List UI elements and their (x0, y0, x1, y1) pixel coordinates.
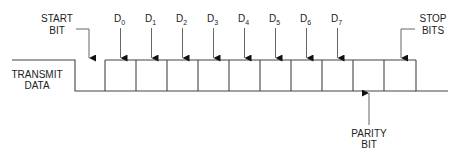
stop-edge (416, 60, 448, 91)
data-bit-markers: D0D1D2D3D4D5D6D7 (114, 13, 342, 58)
signal-label-line2: DATA (24, 80, 50, 91)
start-bit-label-line1: START (41, 13, 73, 24)
data-bit-label: D6 (300, 13, 311, 26)
data-bit-label: D5 (269, 13, 280, 26)
data-bit-label: D3 (207, 13, 218, 26)
data-bit-label: D0 (114, 13, 125, 26)
start-bit-label-line2: BIT (49, 25, 65, 36)
data-bit-label: D4 (238, 13, 249, 26)
start-bit-arrow (76, 29, 89, 58)
stop-bits-label-line2: BITS (422, 25, 445, 36)
parity-bit-label-line1: PARITY (351, 128, 387, 139)
signal-label-line1: TRANSMIT (11, 69, 62, 80)
parity-bit-label-line2: BIT (361, 139, 377, 150)
data-bit-label: D7 (331, 13, 342, 26)
data-bit-label: D1 (145, 13, 156, 26)
stop-bits-arrow (401, 29, 415, 58)
serial-frame-diagram: TRANSMIT DATA START BIT STOP BITS PARITY… (0, 0, 462, 154)
data-bit-label: D2 (176, 13, 187, 26)
transmit-waveform (12, 60, 448, 91)
waveform-outline (12, 60, 416, 91)
stop-bits-label-line1: STOP (419, 13, 446, 24)
